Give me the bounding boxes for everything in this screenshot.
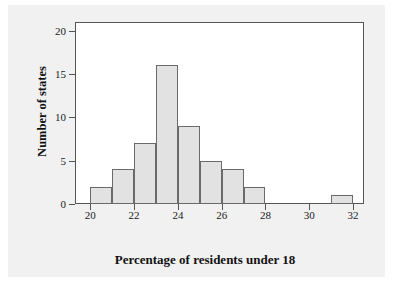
histogram-bars [75, 22, 364, 204]
x-axis-tick-label: 22 [119, 210, 149, 221]
x-axis-tick-mark [134, 204, 135, 210]
x-axis-tick-mark [222, 204, 223, 210]
x-axis-tick-labels: 20222426283032 [0, 210, 393, 226]
x-axis-tick-label: 24 [163, 210, 193, 221]
histogram-bar [222, 169, 244, 204]
y-axis-tick-mark [69, 117, 75, 118]
histogram-bar [178, 126, 200, 204]
plot-area-wrapper: 05101520 20222426283032 Number of states… [0, 0, 393, 284]
x-axis-tick-mark [178, 204, 179, 210]
y-axis-tick-mark [69, 74, 75, 75]
histogram-bar [331, 195, 353, 204]
x-axis-tick-label: 32 [338, 210, 368, 221]
x-axis-tick-label: 26 [207, 210, 237, 221]
histogram-bar [90, 187, 112, 204]
x-axis-tick-mark [353, 204, 354, 210]
histogram-bar [200, 161, 222, 204]
x-axis-tick-mark [265, 204, 266, 210]
histogram-bar [244, 187, 266, 204]
y-axis-tick-mark [69, 204, 75, 205]
x-axis-tick-mark [309, 204, 310, 210]
y-axis-label-holder: Number of states [24, 0, 40, 230]
x-axis-tick-mark [90, 204, 91, 210]
histogram-bar [156, 65, 178, 204]
y-axis-label: Number of states [35, 32, 50, 192]
x-axis-tick-label: 20 [75, 210, 105, 221]
histogram-figure: 05101520 20222426283032 Number of states… [0, 0, 393, 284]
x-axis-label: Percentage of residents under 18 [40, 252, 370, 268]
y-axis-tick-mark [69, 161, 75, 162]
y-axis-tick-mark [69, 31, 75, 32]
histogram-bar [112, 169, 134, 204]
x-axis-tick-label: 28 [250, 210, 280, 221]
x-axis-tick-label: 30 [294, 210, 324, 221]
histogram-bar [134, 143, 156, 204]
y-axis-tick-label: 0 [38, 199, 66, 210]
